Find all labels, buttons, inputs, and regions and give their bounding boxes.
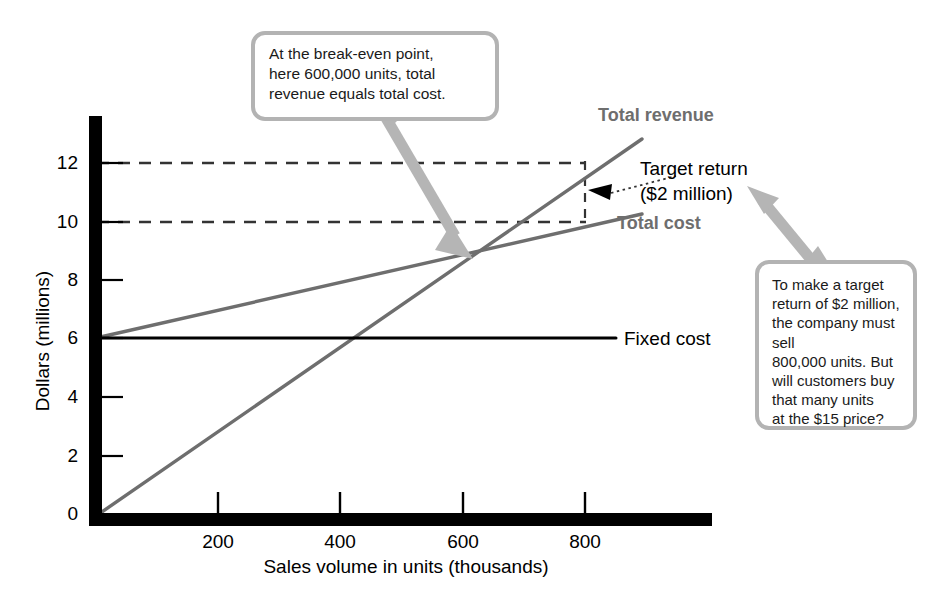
series-label-total-cost: Total cost	[617, 213, 701, 234]
y-tick-label-10: 10	[44, 211, 78, 233]
callout-breakeven: At the break-even point, here 600,000 un…	[251, 31, 499, 121]
y-tick-label-6: 6	[44, 327, 78, 349]
callout-target-line7: at the $15 price?	[772, 409, 905, 428]
y-tick-label-0: 0	[44, 503, 78, 525]
y-tick-label-12: 12	[44, 152, 78, 174]
breakeven-callout-arrow	[386, 118, 473, 259]
callout-target-line2: return of $2 million,	[772, 294, 905, 313]
x-axis-title: Sales volume in units (thousands)	[226, 556, 586, 578]
x-tick-label-600: 600	[433, 531, 493, 553]
x-axis	[89, 513, 712, 526]
annotation-target-return-line1: Target return	[640, 157, 748, 182]
callout-target-line6: that many units	[772, 390, 905, 409]
y-tick-label-8: 8	[44, 269, 78, 291]
series-total-revenue	[96, 139, 642, 516]
callout-target-line4: 800,000 units. But	[772, 352, 905, 371]
x-tick-label-800: 800	[555, 531, 615, 553]
y-axis	[89, 116, 102, 519]
callout-target-return: To make a target return of $2 million, t…	[755, 260, 917, 430]
target-return-arrowhead	[588, 184, 612, 200]
callout-target-line1: To make a target	[772, 275, 905, 294]
y-tick-label-2: 2	[44, 445, 78, 467]
callout-breakeven-line3: revenue equals total cost.	[269, 84, 483, 104]
series-label-fixed-cost: Fixed cost	[624, 328, 711, 350]
x-tick-label-200: 200	[188, 531, 248, 553]
y-tick-marks	[102, 163, 123, 456]
series-label-total-revenue: Total revenue	[598, 105, 714, 126]
callout-breakeven-line2: here 600,000 units, total	[269, 64, 483, 84]
break-even-chart-figure: Dollars (millions) Sales volume in units…	[0, 0, 937, 593]
annotation-target-return-line2: ($2 million)	[640, 182, 748, 207]
x-tick-label-400: 400	[310, 531, 370, 553]
y-tick-label-4: 4	[44, 386, 78, 408]
series-total-cost	[96, 214, 642, 338]
annotation-target-return: Target return ($2 million)	[640, 157, 748, 206]
target-callout-arrow	[747, 186, 818, 268]
callout-target-line3: the company must sell	[772, 313, 905, 351]
x-tick-marks	[218, 492, 585, 513]
callout-breakeven-line1: At the break-even point,	[269, 44, 483, 64]
callout-target-line5: will customers buy	[772, 371, 905, 390]
